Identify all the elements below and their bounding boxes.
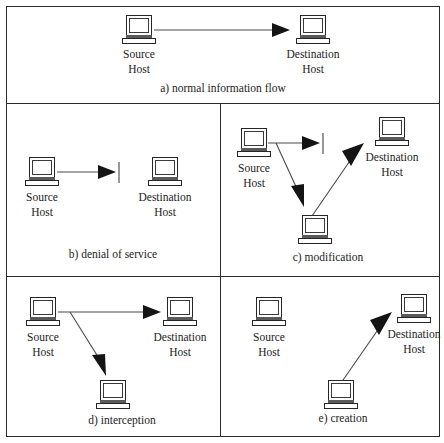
arrowhead-blocked — [302, 136, 320, 150]
panel-c-modification: Source Host Destination Host c) modifica… — [220, 103, 440, 276]
screen-icon — [305, 218, 325, 233]
host-label-source-d-line2: Host — [3, 346, 83, 359]
host-label-destination-a-line2: Host — [268, 63, 358, 76]
host-destination-c — [375, 117, 409, 147]
host-label-destination-d-line1: Destination — [135, 331, 225, 344]
monitor-base — [296, 38, 330, 44]
arrowhead-to-destination — [272, 23, 290, 37]
monitor-base — [375, 140, 409, 146]
host-destination-d — [163, 297, 197, 327]
monitor-base — [122, 38, 156, 44]
host-destination-b — [148, 157, 182, 187]
host-destination-a — [296, 15, 330, 45]
screen-icon — [404, 297, 424, 312]
host-attacker-e — [324, 380, 358, 410]
host-label-destination-b-line1: Destination — [120, 191, 210, 204]
host-destination-e — [397, 294, 431, 324]
panel-d-interception: Source Host Destination Host d) intercep… — [6, 276, 220, 437]
screen-icon — [303, 18, 323, 33]
host-label-source-e-line1: Source — [229, 331, 309, 344]
host-label-destination-e-line2: Host — [369, 343, 444, 356]
panel-caption-d: d) interception — [52, 414, 192, 427]
monitor-base — [298, 238, 332, 244]
screen-icon — [170, 300, 190, 315]
screen-icon — [259, 300, 279, 315]
monitor-base — [96, 403, 130, 409]
host-label-source-e-line2: Host — [229, 346, 309, 359]
monitor-base — [237, 151, 271, 157]
screen-icon — [103, 383, 123, 398]
screen-icon — [32, 160, 52, 175]
screen-icon — [331, 383, 351, 398]
panel-e-creation: Source Host Destination Host e) creation — [220, 276, 440, 437]
monitor-base — [25, 180, 59, 186]
panel-caption-a: a) normal information flow — [93, 82, 353, 95]
host-label-source-b-line1: Source — [2, 191, 82, 204]
panel-a-normal-information-flow: Source Host Destination Host a) normal i… — [6, 6, 440, 103]
host-label-source-d-line1: Source — [3, 331, 83, 344]
host-source-b — [25, 157, 59, 187]
attack-types-figure: Source Host Destination Host a) normal i… — [0, 0, 444, 443]
host-source-d — [26, 297, 60, 327]
host-attacker-d — [96, 380, 130, 410]
host-source-e — [252, 297, 286, 327]
panel-caption-b: b) denial of service — [28, 248, 198, 261]
screen-icon — [129, 18, 149, 33]
host-label-source-b-line2: Host — [2, 206, 82, 219]
panel-caption-c: c) modification — [253, 251, 403, 264]
monitor-base — [163, 320, 197, 326]
host-label-destination-a-line1: Destination — [268, 48, 358, 61]
host-attacker-c — [298, 215, 332, 245]
monitor-base — [397, 317, 431, 323]
panel-caption-e: e) creation — [278, 412, 408, 425]
screen-icon — [33, 300, 53, 315]
host-label-destination-c-line1: Destination — [347, 151, 437, 164]
monitor-base — [148, 180, 182, 186]
screen-icon — [155, 160, 175, 175]
panel-b-denial-of-service: Source Host Destination Host b) denial o… — [6, 103, 220, 276]
host-label-destination-b-line2: Host — [120, 206, 210, 219]
screen-icon — [382, 120, 402, 135]
screen-icon — [244, 131, 264, 146]
monitor-base — [324, 403, 358, 409]
arrowhead-to-attacker — [92, 354, 106, 376]
arrowhead-to-destination — [143, 305, 161, 319]
host-source-c — [237, 128, 271, 158]
host-source-a — [122, 15, 156, 45]
host-label-source-a-line1: Source — [99, 48, 179, 61]
arrowhead-blocked — [98, 165, 116, 179]
host-label-destination-c-line2: Host — [347, 166, 437, 179]
host-label-source-c-line1: Source — [214, 162, 294, 175]
monitor-base — [252, 320, 286, 326]
host-label-destination-e-line1: Destination — [369, 328, 444, 341]
host-label-source-c-line2: Host — [214, 177, 294, 190]
host-label-destination-d-line2: Host — [135, 346, 225, 359]
monitor-base — [26, 320, 60, 326]
host-label-source-a-line2: Host — [99, 63, 179, 76]
